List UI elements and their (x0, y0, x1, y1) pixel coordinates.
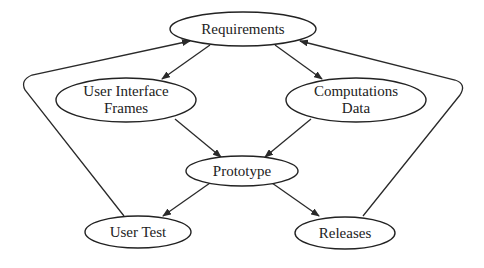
edge-user-test-to-requirements (24, 41, 190, 216)
edge-requirements-to-ui-frames (162, 45, 210, 79)
edge-releases-to-requirements (300, 41, 463, 216)
edge-requirements-to-computations (275, 45, 322, 79)
process-diagram: Requirements User Interface Frames Compu… (0, 0, 484, 268)
node-releases-label: Releases (319, 225, 372, 241)
edge-computations-to-prototype (265, 119, 311, 157)
node-computations: Computations Data (286, 78, 426, 122)
edge-prototype-to-releases (272, 183, 319, 216)
edge-ui-frames-to-prototype (175, 119, 221, 157)
node-computations-label-line1: Computations (314, 83, 398, 99)
edges (24, 41, 463, 216)
node-prototype-label: Prototype (213, 163, 272, 179)
node-computations-label-line2: Data (342, 100, 371, 116)
node-releases: Releases (295, 217, 395, 249)
node-requirements: Requirements (170, 12, 316, 46)
node-ui-frames-label-line1: User Interface (83, 83, 169, 99)
node-user-test: User Test (85, 216, 191, 248)
node-ui-frames: User Interface Frames (56, 78, 196, 122)
node-prototype: Prototype (186, 156, 298, 186)
node-user-test-label: User Test (110, 224, 167, 240)
edge-prototype-to-user-test (163, 183, 210, 216)
node-requirements-label: Requirements (201, 21, 284, 37)
node-ui-frames-label-line2: Frames (104, 100, 148, 116)
